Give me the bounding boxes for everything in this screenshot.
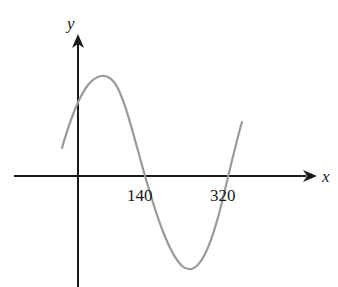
x-axis-label: x [321,167,330,186]
tick-label-320: 320 [210,186,236,205]
y-axis-label: y [65,14,75,33]
tick-label-140: 140 [127,186,153,205]
graph-plot: y x 140 320 [0,0,338,287]
figure-container: y x 140 320 [0,0,338,287]
